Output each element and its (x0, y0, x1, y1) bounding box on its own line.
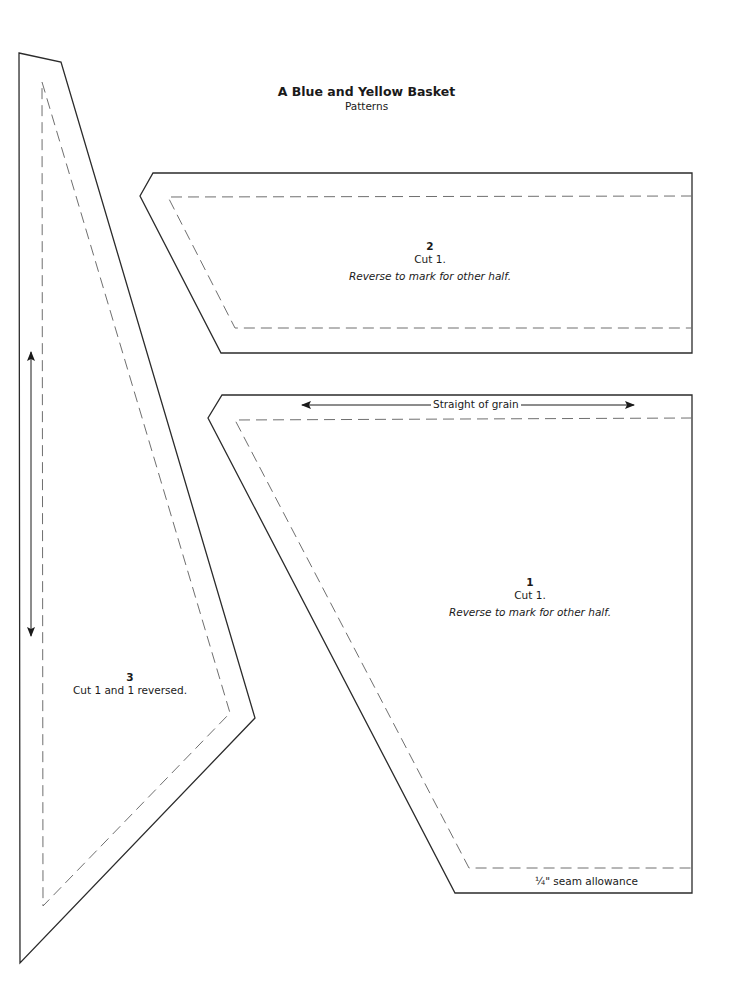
piece-1-cut-line (208, 395, 692, 893)
piece-3-seam-line (42, 82, 230, 906)
piece-1-label: 1 Cut 1. Reverse to mark for other half. (440, 576, 620, 618)
page-title: A Blue and Yellow Basket (0, 84, 733, 99)
page-subtitle: Patterns (0, 100, 733, 112)
page-header: A Blue and Yellow Basket Patterns (0, 84, 733, 112)
piece-3-cut-line (19, 53, 255, 963)
piece-1-number: 1 (440, 576, 620, 588)
piece-1-cut-instruction: Cut 1. (440, 589, 620, 601)
piece-3-number: 3 (60, 671, 200, 683)
piece-1-seam-line (235, 418, 692, 868)
piece-2-label: 2 Cut 1. Reverse to mark for other half. (340, 240, 520, 282)
piece-2-note: Reverse to mark for other half. (340, 270, 520, 282)
pattern-drawing (0, 0, 733, 993)
piece-2-number: 2 (340, 240, 520, 252)
piece-1-grain-label: Straight of grain (431, 398, 521, 410)
piece-1-shape (208, 395, 692, 893)
piece-2-cut-instruction: Cut 1. (340, 253, 520, 265)
piece-3-label: 3 Cut 1 and 1 reversed. (60, 671, 200, 696)
piece-3-shape (19, 53, 255, 963)
seam-allowance-label: ¼" seam allowance (535, 875, 638, 887)
piece-3-cut-instruction: Cut 1 and 1 reversed. (60, 684, 200, 696)
piece-1-note: Reverse to mark for other half. (440, 606, 620, 618)
